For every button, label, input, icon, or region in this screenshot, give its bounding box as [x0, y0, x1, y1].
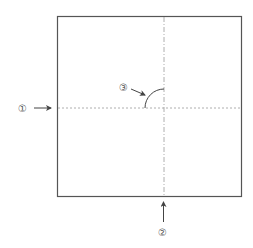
- label-1: ①: [18, 103, 27, 114]
- label-3: ③: [119, 82, 128, 93]
- paper-square: [58, 17, 242, 197]
- fold-diagram: ① ② ③: [0, 0, 253, 248]
- label-2: ②: [158, 227, 167, 238]
